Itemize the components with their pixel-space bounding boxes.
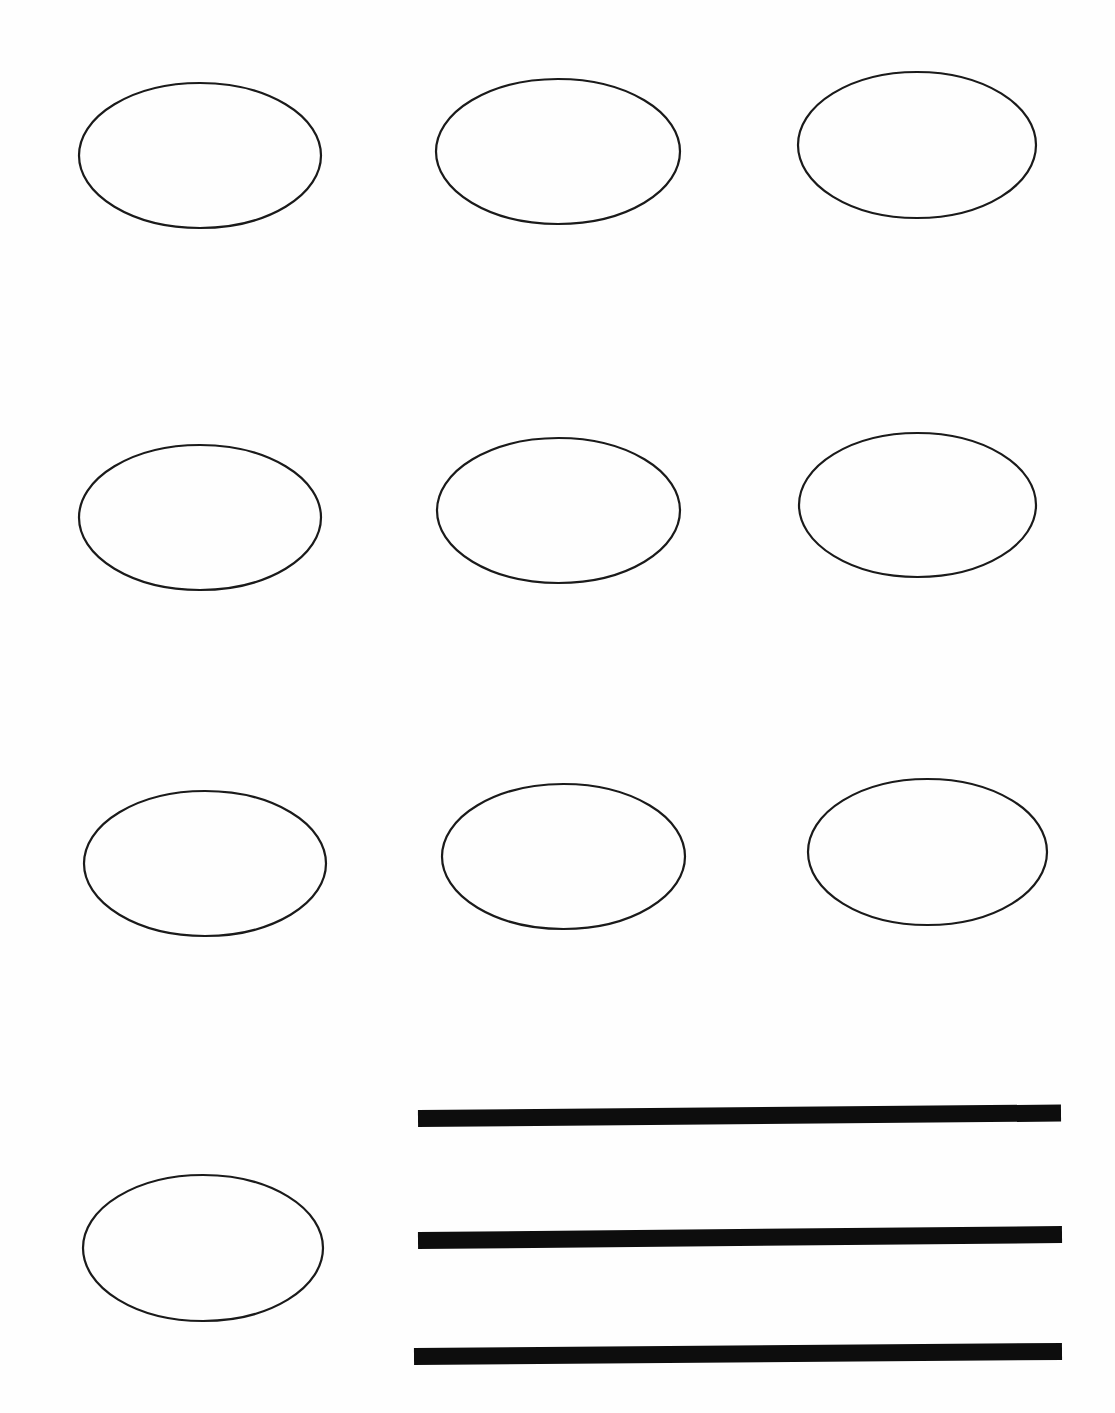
oval-shape [799, 433, 1036, 577]
oval-shape [79, 445, 321, 590]
oval-shape [798, 72, 1036, 218]
writing-line [414, 1352, 1062, 1357]
oval-shape [79, 83, 321, 228]
oval-shape [437, 438, 680, 583]
worksheet-canvas [0, 0, 1115, 1413]
oval-shape [442, 784, 685, 929]
oval-shape [436, 79, 680, 224]
writing-line [418, 1235, 1062, 1241]
oval-shape [83, 1175, 323, 1321]
writing-lines-group [414, 1113, 1062, 1357]
worksheet-page: Oval worksheet [0, 0, 1115, 1413]
ovals-group [79, 72, 1047, 1321]
writing-line [418, 1113, 1061, 1119]
oval-shape [808, 779, 1047, 925]
oval-shape [84, 791, 326, 936]
